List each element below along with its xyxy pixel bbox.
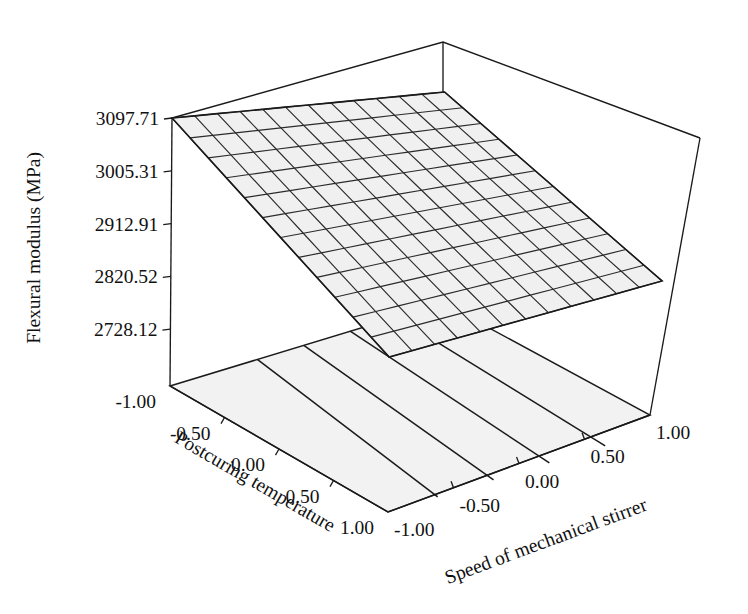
z-axis-line bbox=[170, 118, 172, 386]
response-surface-mesh bbox=[172, 92, 662, 357]
y-tick-mark bbox=[221, 418, 225, 424]
z-tick-mark bbox=[164, 171, 172, 172]
z-axis-title: Flexural modulus (MPa) bbox=[23, 152, 45, 344]
surface-plot-figure: 3097.713005.312912.912820.522728.12-1.00… bbox=[0, 0, 748, 614]
z-tick-mark bbox=[163, 224, 171, 225]
y-tick-mark bbox=[275, 449, 279, 455]
x-tick-label: 0.00 bbox=[525, 471, 559, 492]
z-tick-label: 3005.31 bbox=[95, 161, 158, 182]
y-tick-label: 1.00 bbox=[340, 517, 374, 538]
x-tick-label: -1.00 bbox=[394, 519, 435, 540]
x-tick-label: 0.50 bbox=[591, 446, 625, 467]
x-tick-label: 1.00 bbox=[656, 422, 690, 443]
y-tick-label: -1.00 bbox=[115, 391, 156, 412]
x-tick-label: -0.50 bbox=[460, 495, 501, 516]
z-tick-label: 2820.52 bbox=[94, 266, 157, 287]
z-tick-mark bbox=[162, 329, 170, 330]
z-tick-label: 3097.71 bbox=[96, 108, 159, 129]
z-tick-mark bbox=[163, 276, 171, 277]
surface-plot-canvas: 3097.713005.312912.912820.522728.12-1.00… bbox=[0, 0, 748, 614]
z-tick-label: 2912.91 bbox=[95, 214, 158, 235]
z-tick-label: 2728.12 bbox=[94, 319, 157, 340]
z-tick-mark bbox=[164, 118, 172, 119]
y-tick-mark bbox=[330, 481, 334, 487]
